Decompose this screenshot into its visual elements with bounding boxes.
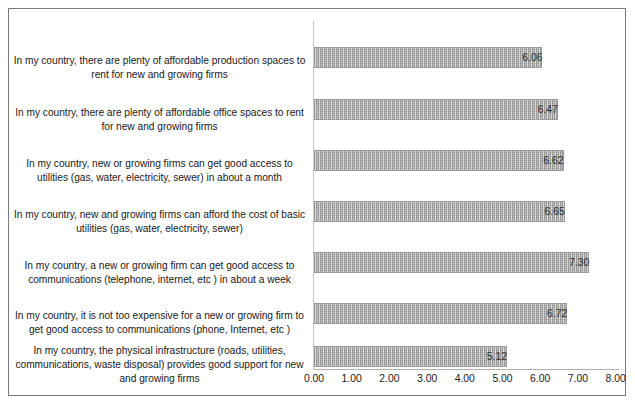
bar-row: 6.72 — [314, 303, 619, 324]
bar-row: 6.47 — [314, 99, 619, 120]
bar-value-label: 6.72 — [314, 303, 572, 324]
category-label: In my country, new and growing firms can… — [11, 208, 308, 236]
bar-value-label: 6.62 — [314, 150, 569, 171]
bar-chart-plot-area: In my country, there are plenty of affor… — [9, 9, 625, 395]
x-tick-label: 6.00 — [530, 372, 550, 386]
bar-value-label: 6.65 — [314, 201, 570, 222]
bar-row: 7.30 — [314, 252, 619, 273]
bar-row: 5.12 — [314, 346, 619, 367]
bar-value-label: 6.47 — [314, 99, 563, 120]
category-label: In my country, it is not too expensive f… — [11, 309, 308, 337]
x-tick-label: 1.00 — [342, 372, 362, 386]
x-tick-label: 2.00 — [379, 372, 399, 386]
x-tick-label: 0.00 — [304, 372, 324, 386]
x-tick-label: 4.00 — [455, 372, 475, 386]
category-label: In my country, there are plenty of affor… — [11, 106, 308, 134]
x-tick-label: 3.00 — [417, 372, 437, 386]
category-label: In my country, a new or growing firm can… — [11, 259, 308, 287]
value-axis-tick-labels: 0.00 1.00 2.00 3.00 4.00 5.00 6.00 7.00 … — [314, 372, 619, 388]
x-tick-label: 7.00 — [568, 372, 588, 386]
category-label: In my country, new or growing firms can … — [11, 157, 308, 185]
bars-area: 6.06 6.47 6.62 6.65 7.30 6.72 — [314, 21, 619, 369]
category-label: In my country, the physical infrastructu… — [11, 344, 308, 386]
bar-value-label: 6.06 — [314, 47, 547, 68]
bar-value-label: 5.12 — [314, 346, 512, 367]
category-label: In my country, there are plenty of affor… — [11, 54, 308, 82]
bar-row: 6.65 — [314, 201, 619, 222]
value-axis-baseline — [313, 369, 619, 370]
bar-row: 6.62 — [314, 150, 619, 171]
bar-row: 6.06 — [314, 47, 619, 68]
x-tick-label: 8.00 — [605, 372, 625, 386]
category-axis-labels: In my country, there are plenty of affor… — [11, 21, 308, 373]
bar-value-label: 7.30 — [314, 252, 594, 273]
x-tick-label: 5.00 — [492, 372, 512, 386]
chart-frame: In my country, there are plenty of affor… — [8, 8, 626, 396]
